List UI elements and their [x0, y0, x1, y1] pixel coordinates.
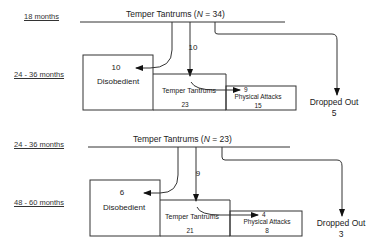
to-physical-count: 9 [244, 86, 248, 93]
tantrums-label: Temper Tantrums [162, 87, 216, 94]
to-disobedient-count: 10 [112, 63, 121, 72]
to-age-label: 48 - 60 months [14, 198, 64, 207]
physical-label: Physical Attacks [235, 93, 282, 100]
physical-total: 8 [265, 227, 269, 234]
dropped-count: 5 [332, 108, 337, 118]
tantrums-label: Temper Tantrums [165, 213, 219, 220]
dropped-label: Dropped Out [317, 218, 366, 228]
dropped-count: 3 [339, 229, 344, 239]
from-age-label: 24 - 36 months [14, 140, 64, 149]
to-disobedient-count: 6 [120, 188, 124, 197]
to-tantrums-count: 9 [196, 169, 200, 178]
disobedient-label: Disobedient [103, 203, 145, 212]
group-title: Temper Tantrums (N = 34) [126, 9, 225, 19]
from-age-label: 18 months [24, 12, 59, 21]
tantrums-total: 21 [186, 227, 193, 234]
dropped-label: Dropped Out [310, 97, 359, 107]
flow-diagram-lines [0, 0, 373, 245]
physical-label: Physical Attacks [244, 218, 291, 225]
to-tantrums-count: 10 [189, 43, 198, 52]
to-physical-count: 4 [262, 211, 266, 218]
tantrums-total: 23 [181, 101, 188, 108]
physical-total: 15 [254, 102, 261, 109]
disobedient-label: Disobedient [97, 77, 139, 86]
group-title: Temper Tantrums (N = 23) [133, 134, 232, 144]
to-age-label: 24 - 36 months [14, 70, 64, 79]
